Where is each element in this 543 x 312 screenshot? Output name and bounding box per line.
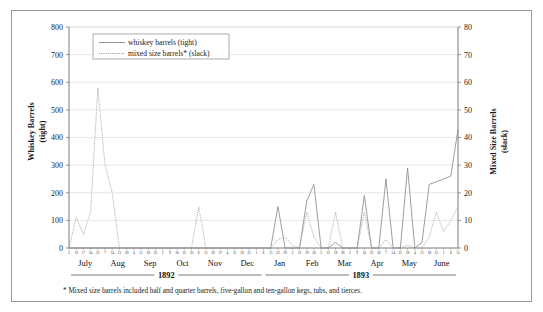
y-tick-label: 100: [51, 216, 63, 225]
x-tick-label: 15: [269, 251, 273, 255]
chart-container: 0100200300400500600700800010203040506070…: [0, 0, 543, 312]
y-tick-label: 300: [51, 161, 63, 170]
x-tick-label: 29: [283, 251, 287, 255]
x-tick-label: 4: [227, 251, 229, 255]
x-month-label: July: [78, 259, 93, 268]
x-tick-label: 3: [68, 251, 70, 255]
x-tick-label: 14: [391, 251, 395, 255]
x-tick-label: 16: [363, 251, 367, 255]
x-tick-label: 5: [291, 251, 293, 255]
x-tick-label: 23: [182, 251, 186, 255]
x-tick-label: 31: [96, 251, 100, 255]
x-month-label: Dec: [241, 259, 255, 268]
x-tick-label: 30: [377, 251, 381, 255]
x-tick-label: 28: [125, 251, 129, 255]
x-tick-label: 2: [162, 251, 164, 255]
legend-item-label: mixed size barrels* (slack): [128, 49, 210, 58]
x-tick-label: 28: [406, 251, 410, 255]
x-month-label: Jan: [274, 259, 286, 268]
x-tick-label: 5: [320, 251, 322, 255]
x-month-label: Aug: [110, 259, 125, 268]
x-tick-label: 6: [198, 251, 200, 255]
y-tick-label: 200: [51, 189, 63, 198]
x-tick-label: 21: [399, 251, 403, 255]
x-tick-label: 18: [240, 251, 244, 255]
y-tick-label: 0: [59, 244, 63, 253]
y-axis-title: Whiskey Barrels: [27, 102, 36, 160]
y2-tick-label: 80: [464, 23, 472, 32]
y2-tick-label: 40: [464, 133, 472, 142]
x-month-label: May: [402, 259, 418, 268]
x-tick-label: 1: [255, 251, 257, 255]
x-month-label: Oct: [176, 259, 189, 268]
x-tick-label: 18: [146, 251, 150, 255]
x-tick-label: 9: [356, 251, 358, 255]
y-tick-label: 600: [51, 78, 63, 87]
x-tick-label: 19: [305, 251, 309, 255]
x-tick-label: 1: [443, 251, 445, 255]
x-tick-label: 13: [204, 251, 208, 255]
y2-tick-label: 10: [464, 216, 472, 225]
x-tick-label: 23: [370, 251, 374, 255]
x-tick-label: 26: [312, 251, 316, 255]
x-tick-label: 10: [74, 251, 78, 255]
chart-footnote: * Mixed size barrels included half and q…: [63, 287, 362, 295]
x-tick-label: 11: [139, 251, 143, 255]
x-tick-label: 11: [420, 251, 424, 255]
x-tick-label: 17: [82, 251, 86, 255]
x-tick-label: 24: [89, 251, 93, 255]
x-tick-label: 9: [169, 251, 171, 255]
x-tick-label: 4: [414, 251, 416, 255]
y-tick-label: 500: [51, 106, 63, 115]
x-tick-label: 21: [118, 251, 122, 255]
x-tick-label: 20: [211, 251, 215, 255]
x-tick-label: 4: [133, 251, 135, 255]
x-tick-label: 8: [263, 251, 265, 255]
x-tick-label: 12: [327, 251, 331, 255]
x-tick-label: 30: [190, 251, 194, 255]
y-tick-label: 800: [51, 23, 63, 32]
x-month-label: Apr: [370, 259, 383, 268]
y-axis-title-sub: (tight): [38, 120, 47, 142]
whiskey-barrels-line-chart: 0100200300400500600700800010203040506070…: [0, 0, 543, 312]
x-tick-label: 7: [385, 251, 387, 255]
x-tick-label: 16: [175, 251, 179, 255]
x-tick-label: 25: [435, 251, 439, 255]
y2-tick-label: 0: [464, 244, 468, 253]
x-year-label: 1893: [352, 271, 369, 280]
x-month-label: Sep: [144, 259, 157, 268]
x-tick-label: 27: [218, 251, 222, 255]
y2-axis-title: Mixed Size Barrels: [489, 108, 498, 174]
y2-tick-label: 70: [464, 51, 472, 60]
x-tick-label: 22: [276, 251, 280, 255]
y2-tick-label: 60: [464, 78, 472, 87]
x-tick-label: 19: [334, 251, 338, 255]
x-year-label: 1892: [158, 271, 175, 280]
y2-tick-label: 20: [464, 189, 472, 198]
x-tick-label: 25: [247, 251, 251, 255]
x-tick-label: 2: [349, 251, 351, 255]
y-tick-label: 700: [51, 51, 63, 60]
x-month-label: Feb: [306, 259, 319, 268]
x-tick-label: 7: [104, 251, 106, 255]
x-tick-label: 8: [450, 251, 452, 255]
x-month-label: Nov: [208, 259, 223, 268]
x-month-label: Mar: [338, 259, 352, 268]
legend-item-label: whiskey barrels (tight): [128, 38, 197, 47]
x-tick-label: 25: [154, 251, 158, 255]
y2-tick-label: 30: [464, 161, 472, 170]
x-tick-label: 14: [110, 251, 114, 255]
y2-tick-label: 50: [464, 106, 472, 115]
x-tick-label: 12: [298, 251, 302, 255]
y2-axis-title-sub: (slack): [500, 130, 509, 153]
series-line-slack: [69, 88, 458, 248]
x-tick-label: 11: [233, 251, 237, 255]
x-tick-label: 18: [427, 251, 431, 255]
x-tick-label: 15: [456, 251, 460, 255]
y-tick-label: 400: [51, 133, 63, 142]
x-month-label: June: [434, 259, 450, 268]
x-tick-label: 26: [341, 251, 345, 255]
series-line-tight: [69, 129, 458, 248]
